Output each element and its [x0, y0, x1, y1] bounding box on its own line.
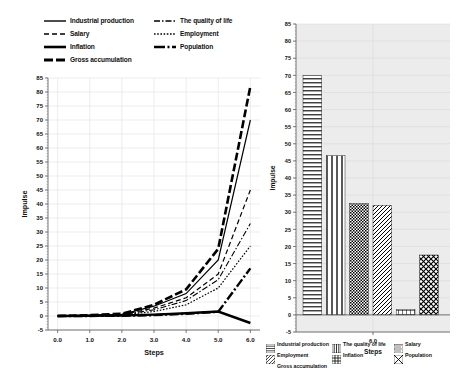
legend-label: The quality of life	[180, 17, 232, 24]
svg-text:6.0: 6.0	[246, 336, 255, 343]
legend-item-salary: Salary	[44, 27, 154, 40]
legend-label: Population	[405, 352, 432, 358]
legend-label: Population	[180, 43, 213, 50]
legend-label: Employment	[180, 30, 219, 37]
bar-chart: -505101520253035404550556065707580856.0S…	[266, 14, 458, 376]
diagonal-lines-pattern-icon	[266, 350, 275, 359]
legend-item-industrial-production: Industrial production	[44, 14, 154, 27]
legend-item-gross-accumulation: Gross accumulation	[266, 360, 332, 371]
svg-text:80: 80	[285, 38, 291, 44]
svg-text:75: 75	[36, 103, 43, 109]
vertical-lines-pattern-icon	[332, 339, 341, 348]
legend-row: Salary Employment	[44, 27, 264, 40]
svg-text:0: 0	[40, 313, 44, 319]
svg-text:15: 15	[36, 271, 43, 277]
svg-text:20: 20	[285, 244, 291, 250]
svg-text:Impulse: Impulse	[269, 165, 277, 190]
legend-label: Salary	[70, 30, 89, 37]
svg-text:20: 20	[36, 257, 43, 263]
bar-chart-canvas: -505101520253035404550556065707580856.0S…	[266, 14, 458, 376]
svg-text:2.0: 2.0	[118, 336, 127, 343]
bar-chart-legend: Industrial production The quality of lif…	[266, 338, 460, 374]
svg-text:10: 10	[36, 285, 43, 291]
svg-text:-5: -5	[38, 327, 44, 333]
svg-text:Steps: Steps	[144, 348, 164, 357]
legend-label: Inflation	[343, 352, 363, 358]
cross-checker-pattern-icon	[394, 350, 403, 359]
svg-text:15: 15	[285, 261, 291, 267]
legend-item-the-quality-of-life: The quality of life	[332, 338, 394, 349]
legend-label: Salary	[405, 341, 421, 347]
legend-row: Gross accumulation	[44, 53, 264, 66]
svg-text:5: 5	[40, 299, 44, 305]
svg-text:50: 50	[285, 141, 291, 147]
svg-text:45: 45	[285, 158, 291, 164]
horizontal-lines-pattern-icon	[266, 339, 275, 348]
legend-item-industrial-production: Industrial production	[266, 338, 332, 349]
legend-label: The quality of life	[343, 341, 386, 347]
legend-item-the-quality-of-life: The quality of life	[154, 14, 264, 27]
svg-text:70: 70	[285, 73, 291, 79]
svg-text:85: 85	[285, 21, 291, 27]
legend-label: Gross accumulation	[70, 56, 132, 63]
svg-text:25: 25	[36, 243, 43, 249]
line-solid-icon	[44, 16, 66, 26]
legend-label: Industrial production	[277, 341, 329, 347]
line-dash-dot-icon	[154, 16, 176, 26]
svg-text:55: 55	[285, 124, 291, 130]
legend-row: Industrial production The quality of lif…	[44, 14, 264, 27]
svg-text:1.0: 1.0	[85, 336, 94, 343]
svg-text:0: 0	[288, 312, 291, 318]
svg-text:5.0: 5.0	[214, 336, 223, 343]
svg-text:3.0: 3.0	[150, 336, 159, 343]
legend-label: Gross accumulation	[277, 363, 327, 369]
svg-text:70: 70	[36, 117, 43, 123]
svg-text:50: 50	[36, 173, 43, 179]
svg-text:30: 30	[36, 229, 43, 235]
legend-item-inflation: Inflation	[44, 40, 154, 53]
svg-text:0.0: 0.0	[53, 336, 62, 343]
svg-text:80: 80	[36, 89, 43, 95]
svg-text:35: 35	[285, 192, 291, 198]
line-chart: -505101520253035404550556065707580850.01…	[18, 70, 266, 370]
svg-text:75: 75	[285, 55, 291, 61]
legend-row: Employment Inflation Population	[266, 349, 460, 360]
svg-text:65: 65	[285, 90, 291, 96]
svg-text:-5: -5	[286, 329, 291, 335]
legend-label: Inflation	[70, 43, 95, 50]
legend-item-employment: Employment	[154, 27, 264, 40]
svg-text:60: 60	[285, 107, 291, 113]
svg-text:25: 25	[285, 227, 291, 233]
svg-text:10: 10	[285, 278, 291, 284]
line-chart-legend: Industrial production The quality of lif…	[44, 14, 264, 66]
svg-text:4.0: 4.0	[182, 336, 191, 343]
svg-text:55: 55	[36, 159, 43, 165]
legend-label: Employment	[277, 352, 308, 358]
legend-row: Gross accumulation	[266, 360, 460, 371]
legend-item-salary: Salary	[394, 338, 456, 349]
line-chart-canvas: -505101520253035404550556065707580850.01…	[18, 70, 266, 370]
svg-text:65: 65	[36, 131, 43, 137]
legend-row: Inflation Population	[44, 40, 264, 53]
svg-text:5: 5	[288, 295, 291, 301]
svg-text:40: 40	[36, 201, 43, 207]
svg-text:85: 85	[36, 75, 43, 81]
line-solid-thick-icon	[44, 42, 66, 52]
svg-text:35: 35	[36, 215, 43, 221]
dense-checker-pattern-icon	[394, 339, 403, 348]
legend-item-population: Population	[394, 349, 456, 360]
line-dashed-icon	[44, 29, 66, 39]
legend-item-population: Population	[154, 40, 264, 53]
legend-item-gross-accumulation: Gross accumulation	[44, 53, 154, 66]
legend-row: Industrial production The quality of lif…	[266, 338, 460, 349]
svg-text:Impulse: Impulse	[20, 190, 29, 217]
svg-text:30: 30	[285, 209, 291, 215]
legend-item-inflation: Inflation	[332, 349, 394, 360]
svg-text:60: 60	[36, 145, 43, 151]
grid-pattern-icon	[332, 350, 341, 359]
legend-label: Industrial production	[70, 17, 134, 24]
line-dotted-icon	[154, 29, 176, 39]
line-dash-dot-thick-icon	[154, 42, 176, 52]
legend-item-employment: Employment	[266, 349, 332, 360]
svg-text:40: 40	[285, 175, 291, 181]
